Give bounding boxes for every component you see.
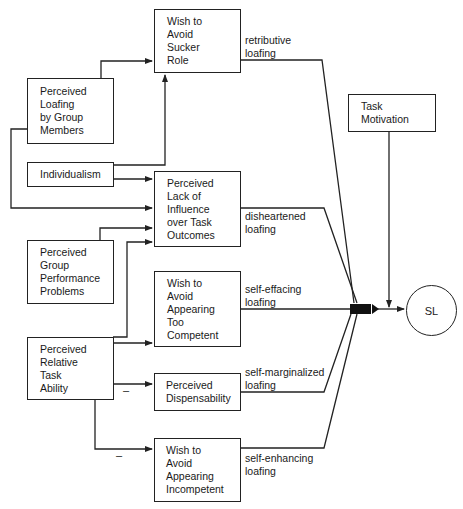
node-wish-avoid-appearing-too-competent: Wish to Avoid Appearing Too Competent bbox=[154, 271, 241, 347]
node-perceived-dispensability: Perceived Dispensability bbox=[154, 373, 241, 411]
node-perceived-relative-task-ability: Perceived Relative Task Ability bbox=[27, 337, 114, 400]
node-individualism: Individualism bbox=[27, 162, 114, 187]
node-wish-avoid-appearing-incompetent: Wish to Avoid Appearing Incompetent bbox=[154, 438, 241, 502]
label-retributive-loafing: retributive loafing bbox=[245, 34, 291, 60]
node-task-motivation: Task Motivation bbox=[348, 94, 436, 132]
node-perceived-lack-of-influence: Perceived Lack of Influence over Task Ou… bbox=[154, 171, 241, 247]
negative-sign-incompetent: – bbox=[116, 449, 122, 461]
node-perceived-loafing-by-group-members: Perceived Loafing by Group Members bbox=[27, 78, 114, 144]
convergence-node bbox=[350, 304, 371, 314]
node-sl: SL bbox=[406, 285, 457, 336]
label-disheartened-loafing: disheartened loafing bbox=[245, 210, 306, 236]
label-self-effacing-loafing: self-effacing loafing bbox=[245, 283, 301, 309]
negative-sign-dispensability: – bbox=[123, 384, 129, 396]
label-self-enhancing-loafing: self-enhancing loafing bbox=[245, 452, 313, 478]
node-perceived-group-performance-problems: Perceived Group Performance Problems bbox=[27, 240, 114, 304]
label-self-marginalized-loafing: self-marginalized loafing bbox=[245, 366, 324, 392]
node-wish-avoid-sucker-role: Wish to Avoid Sucker Role bbox=[154, 9, 241, 73]
